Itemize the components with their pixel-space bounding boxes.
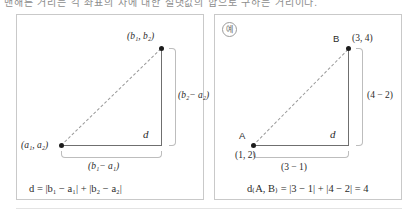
- example-formula: d₍A, B₎ = |3 − 1| + |4 − 2| = 4: [247, 184, 369, 195]
- example-point-a-name: A: [239, 131, 245, 141]
- general-point-a-label: (a₁, a₂): [21, 141, 48, 151]
- example-horizontal-bracket: [253, 151, 349, 158]
- general-point-a-dot: [59, 143, 64, 148]
- example-badge: 예: [222, 22, 237, 37]
- example-vertical-leg-label: (4 − 2): [367, 91, 393, 101]
- general-point-b-dot: [159, 46, 164, 51]
- example-point-b-name: B: [333, 34, 339, 44]
- general-horizontal-leg: [61, 145, 162, 146]
- caption-text: 맨해튼 거리는 각 좌표의 차에 대한 절댓값의 합으로 구하는 거리이다.: [4, 0, 318, 9]
- bottom-divider: [16, 208, 402, 209]
- example-vertical-leg: [348, 48, 349, 145]
- example-diagram-stage: 예 B (3, 4) A (1, 2) (4 − 2) (3 − 1) d d₍…: [215, 15, 401, 199]
- example-horizontal-leg-label: (3 − 1): [281, 163, 307, 173]
- figure: (b₁, b₂) (a₁, a₂) (b₂− a₂) (b₁− a₁) d d …: [0, 10, 414, 210]
- example-horizontal-leg: [253, 145, 349, 146]
- general-diagram-stage: (b₁, b₂) (a₁, a₂) (b₂− a₂) (b₁− a₁) d d …: [17, 15, 203, 199]
- general-vertical-leg-label: (b₂− a₂): [178, 91, 209, 101]
- general-vertical-bracket: [169, 48, 176, 146]
- general-horizontal-bracket: [61, 151, 162, 158]
- example-diagonal-label: d: [330, 129, 336, 140]
- general-vertical-leg: [161, 48, 162, 145]
- general-diagonal-label: d: [143, 129, 149, 140]
- example-point-b-dot: [346, 46, 351, 51]
- general-point-b-label: (b₁, b₂): [127, 32, 154, 42]
- general-horizontal-leg-label: (b₁− a₁): [88, 162, 119, 172]
- caption-strip: 맨해튼 거리는 각 좌표의 차에 대한 절댓값의 합으로 구하는 거리이다.: [0, 0, 414, 10]
- example-point-a-dot: [251, 143, 256, 148]
- example-vertical-bracket: [356, 48, 363, 146]
- general-formula: d = |b₁ − a₁| + |b₂ − a₂|: [29, 184, 122, 195]
- example-point-b-coords: (3, 4): [352, 34, 373, 44]
- panel-general-case: (b₁, b₂) (a₁, a₂) (b₂− a₂) (b₁− a₁) d d …: [16, 14, 204, 200]
- example-point-a-coords: (1, 2): [235, 151, 256, 161]
- panel-worked-example: 예 B (3, 4) A (1, 2) (4 − 2) (3 − 1) d d₍…: [214, 14, 402, 200]
